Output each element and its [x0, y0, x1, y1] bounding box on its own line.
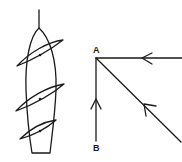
hull-outline: [26, 28, 56, 153]
sail-top: [17, 40, 63, 66]
point-b-label: B: [93, 144, 100, 153]
point-a-label: A: [93, 46, 100, 55]
diagonal-arrow-icon: [144, 104, 156, 116]
sail-middle: [16, 84, 64, 111]
diagram-canvas: [0, 0, 182, 162]
sail-bottom: [20, 120, 56, 139]
vector-diagram: [91, 53, 182, 142]
diagonal-vector-line: [96, 58, 181, 142]
sailboat: [16, 10, 64, 153]
